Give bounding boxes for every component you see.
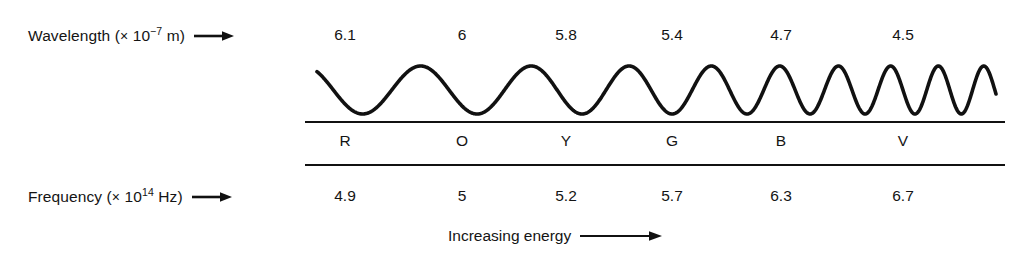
wavelength-label-exponent: −7	[150, 25, 162, 37]
arrow-right-icon	[580, 228, 662, 246]
color-band-letter-5: V	[898, 132, 908, 150]
frequency-axis-label: Frequency (× 1014 Hz)	[28, 188, 232, 207]
frequency-label-exponent: 14	[142, 186, 154, 198]
color-band-letter-2: Y	[561, 132, 571, 150]
increasing-energy-caption: Increasing energy	[448, 227, 662, 246]
frequency-value-0: 4.9	[334, 187, 356, 205]
multiplication-sign: ×	[112, 189, 120, 205]
wavelength-label-prefix: Wavelength (	[28, 27, 120, 44]
wavelength-value-5: 4.5	[892, 26, 914, 44]
spectrum-rule-bottom	[305, 164, 1005, 166]
wavelength-value-4: 4.7	[770, 26, 792, 44]
increasing-energy-label: Increasing energy	[448, 227, 571, 244]
spectrum-rule-top	[305, 121, 1005, 123]
color-band-letter-1: O	[456, 132, 468, 150]
frequency-value-1: 5	[458, 187, 467, 205]
frequency-value-5: 6.7	[892, 187, 914, 205]
electromagnetic-spectrum-figure: Wavelength (× 10−7 m) 6.165.85.44.74.5 R…	[0, 0, 1030, 259]
wavelength-value-3: 5.4	[661, 26, 683, 44]
color-band-letter-3: G	[666, 132, 678, 150]
wavelength-value-0: 6.1	[334, 26, 356, 44]
wavelength-label-unit: m)	[162, 27, 185, 44]
frequency-label-base: 10	[125, 188, 142, 205]
color-band-letter-0: R	[339, 132, 350, 150]
wavelength-value-row: 6.165.85.44.74.5	[305, 26, 1005, 48]
frequency-label-prefix: Frequency (	[28, 188, 112, 205]
multiplication-sign: ×	[120, 28, 128, 44]
frequency-value-3: 5.7	[661, 187, 683, 205]
wavelength-axis-label: Wavelength (× 10−7 m)	[28, 27, 234, 46]
frequency-value-row: 4.955.25.76.36.7	[305, 187, 1005, 209]
wavelength-value-2: 5.8	[555, 26, 577, 44]
color-band-letter-4: B	[776, 132, 786, 150]
arrow-right-icon	[192, 189, 232, 207]
arrow-right-icon	[194, 28, 234, 46]
wavelength-label-base: 10	[133, 27, 150, 44]
color-letter-row: ROYGBV	[305, 132, 1005, 154]
frequency-value-4: 6.3	[770, 187, 792, 205]
frequency-label-unit: Hz)	[154, 188, 183, 205]
frequency-value-2: 5.2	[555, 187, 577, 205]
wavelength-value-1: 6	[458, 26, 467, 44]
